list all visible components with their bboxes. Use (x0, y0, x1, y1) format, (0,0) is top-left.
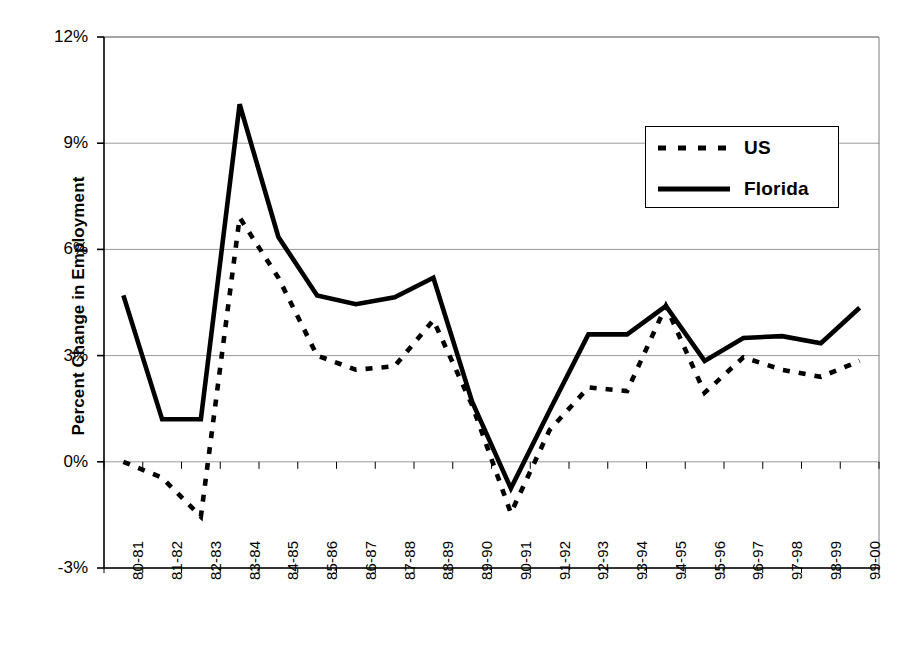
x-tick-label: 92-93 (594, 541, 611, 580)
x-tick-label: 86-87 (362, 541, 379, 580)
x-tick-label: 98-99 (827, 541, 844, 580)
x-tick-label: 89-90 (478, 541, 495, 580)
legend-label-florida: Florida (744, 178, 809, 200)
x-tick-label: 80-81 (129, 541, 146, 580)
x-tick-label: 95-96 (711, 541, 728, 580)
x-tick-label: 84-85 (284, 541, 301, 580)
legend-swatch-solid-icon (658, 184, 730, 194)
x-tick-label: 87-88 (401, 541, 418, 580)
x-tick-label: 83-84 (246, 541, 263, 580)
legend-swatch-dashed-icon (658, 143, 730, 153)
x-tick-label: 93-94 (633, 541, 650, 580)
legend-entry-florida: Florida (646, 168, 838, 209)
x-tick-label: 97-98 (788, 541, 805, 580)
legend-label-us: US (744, 137, 771, 159)
x-tick-label: 94-95 (672, 541, 689, 580)
x-tick-label: 90-91 (517, 541, 534, 580)
x-tick-label: 99-00 (866, 541, 883, 580)
x-tick-label: 81-82 (168, 541, 185, 580)
x-tick-label: 91-92 (556, 541, 573, 580)
legend-entry-us: US (646, 127, 838, 168)
x-tick-label: 96-97 (749, 541, 766, 580)
x-tick-label: 85-86 (323, 541, 340, 580)
x-tick-label: 82-83 (207, 541, 224, 580)
x-axis-tick-labels: 80-8181-8282-8383-8484-8585-8686-8787-88… (0, 0, 900, 648)
chart-legend: US Florida (645, 126, 839, 208)
employment-line-chart: Percent Change in Employment 12%9%6%3%0%… (0, 0, 900, 648)
x-tick-label: 88-89 (439, 541, 456, 580)
